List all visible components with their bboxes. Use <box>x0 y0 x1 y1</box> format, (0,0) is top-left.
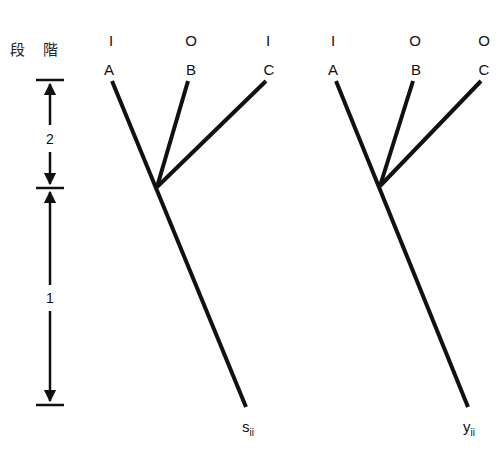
stage-title-char-1: 段 <box>10 38 25 59</box>
tree-s-leaf-a-name: A <box>104 61 114 78</box>
tree-s-leaf-b-name: B <box>186 61 196 78</box>
tree-s-root-label: sii <box>242 418 254 438</box>
tree-s-branches <box>112 81 266 407</box>
tree-y-leaf-a-name: A <box>328 61 338 78</box>
branch-a-to-root <box>336 81 468 407</box>
phylogeny-diagram <box>0 0 504 451</box>
tree-s-leaf-b-state: O <box>185 32 197 49</box>
tree-y-root-label: yii <box>463 418 475 438</box>
stage-title-char-2: 階 <box>43 38 58 59</box>
tree-y-leaf-c-name: C <box>479 61 490 78</box>
tree-s-leaf-a-state: I <box>109 32 113 49</box>
tree-y-leaf-c-state: O <box>478 32 490 49</box>
tree-s-leaf-c-name: C <box>264 61 275 78</box>
stage-2-label: 2 <box>46 129 54 149</box>
stage-1-label: 1 <box>46 288 54 308</box>
tree-y-leaf-a-state: I <box>331 32 335 49</box>
tree-y-branches <box>336 81 481 407</box>
branch-a-to-root <box>112 81 246 407</box>
tree-s-leaf-c-state: I <box>266 32 270 49</box>
tree-y-leaf-b-name: B <box>411 61 421 78</box>
stage-axis-title: 段階 <box>10 38 58 59</box>
tree-y-leaf-b-state: O <box>409 32 421 49</box>
